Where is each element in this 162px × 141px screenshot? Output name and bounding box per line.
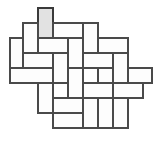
tile bbox=[68, 68, 83, 98]
tile bbox=[83, 83, 113, 98]
tile bbox=[83, 53, 113, 68]
tile bbox=[53, 23, 83, 38]
tile bbox=[23, 53, 53, 68]
tile bbox=[98, 38, 128, 53]
tile bbox=[38, 83, 53, 113]
tile bbox=[113, 83, 143, 98]
tile bbox=[53, 53, 68, 83]
tile bbox=[10, 68, 53, 83]
tile bbox=[68, 38, 83, 68]
tile bbox=[128, 68, 152, 83]
tile-layer bbox=[10, 8, 152, 128]
tiling-figure bbox=[0, 0, 162, 141]
tile bbox=[113, 98, 128, 128]
tile bbox=[98, 98, 113, 128]
tile bbox=[83, 98, 98, 128]
tile bbox=[23, 23, 38, 53]
tile bbox=[113, 53, 128, 83]
tiling-diagram bbox=[0, 0, 162, 141]
shaded-tile bbox=[38, 8, 53, 38]
tile bbox=[83, 23, 98, 53]
tile bbox=[10, 38, 23, 68]
tile bbox=[53, 98, 83, 113]
tile bbox=[53, 113, 83, 128]
tile bbox=[38, 38, 68, 53]
